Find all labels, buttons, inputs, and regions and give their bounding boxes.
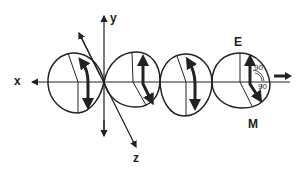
angle-label-bottom: 90 xyxy=(258,83,267,91)
x-axis-label: x xyxy=(14,75,21,87)
lobe-2 xyxy=(104,52,160,107)
magnetic-field-label: M xyxy=(248,118,258,130)
lobe-3 xyxy=(160,54,212,116)
em-wave-diagram: x y z E M 90 90 xyxy=(0,0,304,170)
lobe-4 xyxy=(212,53,270,108)
y-axis-label: y xyxy=(110,12,117,24)
lobe-1 xyxy=(48,53,104,113)
z-axis-label: z xyxy=(133,152,139,164)
electric-field-label: E xyxy=(234,36,242,48)
angle-label-top: 90 xyxy=(254,64,263,72)
propagation-arrow-icon xyxy=(274,72,292,80)
